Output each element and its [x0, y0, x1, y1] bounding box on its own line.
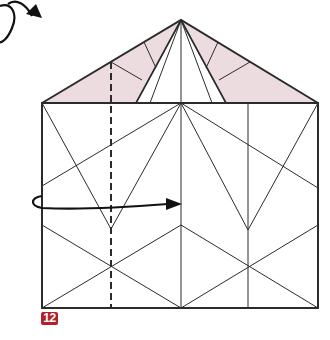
turn-over-arrow-icon	[0, 2, 42, 43]
origami-diagram	[0, 0, 330, 340]
step-number-badge: 12	[41, 312, 58, 325]
fold-arrow-icon	[33, 196, 182, 210]
flap-shading	[42, 20, 318, 103]
crease-lines	[42, 20, 318, 308]
model-outline	[42, 20, 318, 308]
